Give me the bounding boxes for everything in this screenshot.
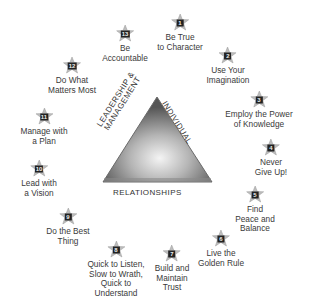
principle-label-line: Imagination — [207, 76, 250, 86]
principle-label: Employ the Powerof Knowledge — [225, 110, 292, 129]
badge-number: 10 — [35, 166, 44, 173]
star-badge: 1 — [170, 14, 190, 32]
principle-item: 10Lead witha Vision — [21, 160, 57, 198]
star-badge: 12 — [62, 57, 82, 75]
principle-label: Do WhatMatters Most — [48, 76, 96, 95]
principle-item: 9Do the BestThing — [46, 208, 89, 246]
principle-item: 8Quick to Listen,Slow to Wrath,Quick toU… — [87, 241, 144, 298]
principle-item: 4NeverGive Up! — [255, 139, 287, 177]
principle-label-line: Accountable — [102, 54, 148, 64]
principle-label-line: Thing — [46, 237, 89, 247]
principle-label-line: a Plan — [20, 137, 67, 147]
star-badge: 3 — [249, 91, 269, 109]
star-badge: 11 — [34, 108, 54, 126]
star-badge: 8 — [106, 241, 126, 259]
principle-label: Live theGolden Rule — [198, 249, 244, 268]
badge-number: 8 — [113, 247, 120, 254]
principle-label: Build andMaintainTrust — [155, 264, 190, 293]
principle-item: 13BeAccountable — [102, 25, 148, 63]
principle-item: 6Live theGolden Rule — [198, 230, 244, 268]
badge-number: 11 — [40, 114, 48, 121]
principle-item: 3Employ the Powerof Knowledge — [225, 91, 292, 129]
principle-item: 11Manage witha Plan — [20, 108, 67, 146]
principle-label: Use YourImagination — [207, 66, 250, 85]
badge-number: 2 — [225, 53, 232, 60]
star-badge: 9 — [58, 208, 78, 226]
star-badge: 2 — [218, 47, 238, 65]
side-label-relationships: RELATIONSHIPS — [113, 189, 182, 197]
principle-label: Lead witha Vision — [21, 179, 57, 198]
badge-number: 4 — [268, 145, 275, 152]
principle-item: 5FindPeace andBalance — [235, 186, 275, 234]
principle-label-line: Understand — [87, 289, 144, 299]
star-badge: 7 — [162, 245, 182, 263]
principle-label: Be Trueto Character — [157, 33, 203, 52]
principle-label-line: to Character — [157, 43, 203, 53]
badge-number: 9 — [64, 214, 71, 221]
principle-item: 2Use YourImagination — [207, 47, 250, 85]
principle-item: 12Do WhatMatters Most — [48, 57, 96, 95]
badge-number: 13 — [121, 31, 130, 38]
star-badge: 4 — [261, 139, 281, 157]
star-badge: 13 — [115, 25, 135, 43]
principle-label-line: Give Up! — [255, 168, 287, 178]
principle-label: NeverGive Up! — [255, 158, 287, 177]
badge-number: 7 — [168, 251, 175, 258]
star-badge: 6 — [211, 230, 231, 248]
principle-label: Quick to Listen,Slow to Wrath,Quick toUn… — [87, 260, 144, 298]
badge-number: 12 — [68, 63, 77, 70]
principle-label: BeAccountable — [102, 44, 148, 63]
badge-number: 1 — [177, 20, 184, 27]
star-badge: 10 — [29, 160, 49, 178]
principle-label-line: Trust — [155, 283, 190, 293]
principle-label-line: Matters Most — [48, 86, 96, 96]
star-badge: 5 — [245, 186, 265, 204]
principle-label-line: a Vision — [21, 189, 57, 199]
badge-number: 6 — [218, 236, 225, 243]
principle-label-line: Golden Rule — [198, 259, 244, 269]
principle-label: Manage witha Plan — [20, 127, 67, 146]
badge-number: 5 — [252, 192, 259, 199]
principle-label: Do the BestThing — [46, 227, 89, 246]
principle-item: 7Build andMaintainTrust — [155, 245, 190, 293]
badge-number: 3 — [255, 97, 262, 104]
principle-item: 1Be Trueto Character — [157, 14, 203, 52]
principle-label-line: of Knowledge — [225, 120, 292, 130]
